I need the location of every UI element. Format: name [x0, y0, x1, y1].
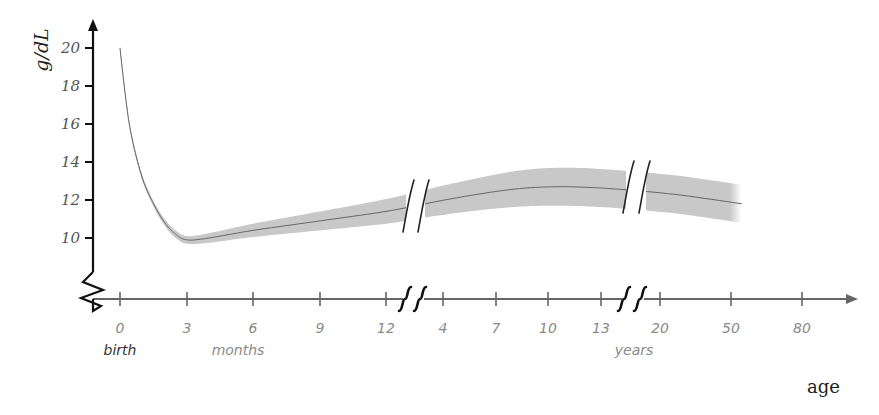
y-tick-label: 10 [61, 229, 81, 247]
normal-range-band [120, 45, 742, 244]
x-axis-arrowhead [846, 294, 858, 304]
y-ticks: 101214161820 [60, 39, 93, 247]
y-tick-label: 16 [61, 115, 81, 133]
x-tick-label: 9 [316, 320, 325, 336]
x-tick-label: 13 [592, 320, 610, 336]
years-label: years [614, 342, 654, 358]
birth-label: birth [104, 342, 137, 358]
x-axis: 036912471013205080 [93, 287, 858, 336]
y-tick-label: 12 [61, 191, 80, 209]
hemoglobin-chart: 101214161820 g/dL 036912471013205080 bir… [0, 0, 879, 415]
x-tick-label: 10 [539, 320, 557, 336]
x-tick-label: 20 [651, 320, 669, 336]
plot-area [120, 45, 742, 244]
y-tick-label: 18 [61, 77, 80, 95]
x-tick-label: 6 [249, 320, 258, 336]
x-tick-label: 50 [722, 320, 740, 336]
x-tick-label: 4 [439, 320, 448, 336]
x-tick-label: 80 [793, 320, 811, 336]
y-axis-arrowhead [88, 19, 98, 31]
y-axis: 101214161820 [60, 19, 103, 311]
y-tick-label: 20 [60, 39, 81, 57]
x-tick-label: 7 [492, 320, 501, 336]
x-tick-label: 0 [116, 320, 125, 336]
x-tick-label: 3 [183, 320, 192, 336]
months-label: months [212, 342, 265, 358]
x-tick-label: 12 [377, 320, 395, 336]
y-axis-title: g/dL [30, 28, 52, 71]
x-axis-title: age [807, 376, 840, 397]
y-tick-label: 14 [61, 153, 80, 171]
